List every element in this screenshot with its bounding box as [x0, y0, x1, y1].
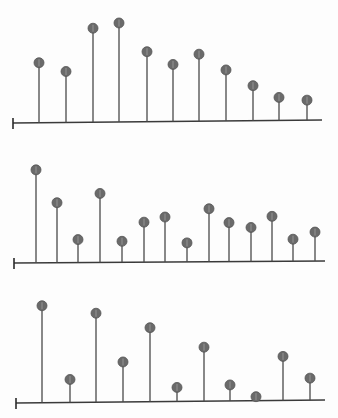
stem-point — [91, 308, 101, 402]
stem-point — [288, 234, 298, 261]
stem-point — [246, 222, 256, 261]
stem-chart-3 — [16, 301, 325, 409]
stem-point — [225, 380, 235, 401]
stem-point — [224, 218, 234, 262]
stem-point — [117, 236, 127, 262]
stem-point — [305, 373, 315, 400]
stem-point — [145, 323, 155, 402]
stem-point — [88, 23, 98, 122]
stem-point — [248, 81, 258, 121]
stem-point — [168, 59, 178, 121]
stem-point — [95, 188, 105, 262]
stem-plots-figure — [0, 0, 338, 418]
stem-point — [204, 204, 214, 262]
stem-point — [118, 357, 128, 402]
x-axis-line — [13, 120, 322, 123]
stem-point — [267, 211, 277, 261]
stem-point — [310, 227, 320, 261]
stem-point — [52, 198, 62, 263]
stem-point — [31, 165, 41, 263]
stem-point — [139, 217, 149, 262]
stem-point — [73, 235, 83, 263]
stem-point — [182, 238, 192, 262]
x-axis-line — [16, 400, 325, 403]
stem-point — [274, 92, 284, 120]
stem-chart-2 — [14, 165, 325, 269]
stem-point — [251, 392, 261, 402]
stem-point — [199, 342, 209, 401]
stem-plots-svg — [0, 0, 338, 418]
stem-point — [61, 66, 71, 122]
x-axis-line — [14, 261, 325, 263]
stem-point — [65, 374, 75, 402]
stem-chart-1 — [13, 18, 322, 129]
stem-point — [160, 212, 170, 262]
stem-point — [302, 95, 312, 120]
stem-point — [278, 351, 288, 400]
stem-point — [221, 65, 231, 121]
stem-point — [142, 47, 152, 122]
stem-point — [194, 49, 204, 121]
stem-point — [172, 382, 182, 401]
stem-point — [37, 301, 47, 403]
stem-point — [34, 58, 44, 123]
stem-point — [114, 18, 124, 122]
